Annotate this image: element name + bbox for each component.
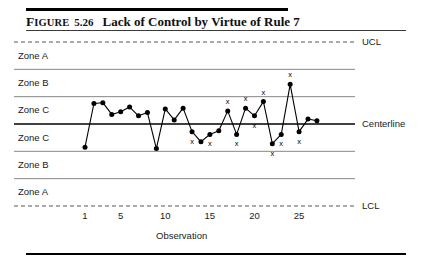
data-point [118, 109, 123, 114]
limit-label-centerline: Centerline [362, 118, 405, 129]
rule7-marker: x [233, 140, 241, 148]
data-point [288, 82, 293, 87]
rule7-marker: x [250, 122, 258, 130]
rule7-marker: x [259, 89, 267, 97]
zone-label-1: Zone B [18, 77, 49, 88]
x-tick-label-5: 5 [107, 210, 135, 221]
limit-label-ucl: UCL [362, 36, 381, 47]
zone-label-4: Zone B [18, 159, 49, 170]
rule7-marker: x [286, 71, 294, 79]
data-point [163, 106, 168, 111]
data-point [198, 139, 203, 144]
data-point [314, 118, 319, 123]
data-point [109, 112, 114, 117]
data-point [225, 108, 230, 113]
data-point [91, 101, 96, 106]
data-point [243, 106, 248, 111]
data-point [216, 128, 221, 133]
x-tick-label-25: 25 [285, 210, 313, 221]
data-point [207, 132, 212, 137]
data-point [252, 113, 257, 118]
data-point [136, 113, 141, 118]
zone-label-0: Zone A [18, 50, 48, 61]
rule7-marker: x [277, 140, 285, 148]
rule7-marker: x [295, 138, 303, 146]
x-tick-label-20: 20 [240, 210, 268, 221]
data-point [172, 117, 177, 122]
zone-label-2: Zone C [18, 104, 49, 115]
limit-label-lcl: LCL [362, 200, 379, 211]
x-tick-label-1: 1 [71, 210, 99, 221]
data-point [279, 132, 284, 137]
data-point [181, 106, 186, 111]
data-point [270, 141, 275, 146]
rule7-marker: x [268, 150, 276, 158]
x-tick-label-15: 15 [196, 210, 224, 221]
data-point [306, 117, 311, 122]
data-point [297, 129, 302, 134]
data-point [154, 146, 159, 151]
data-point [261, 99, 266, 104]
zone-label-3: Zone C [18, 132, 49, 143]
figure-bottom-rule [26, 253, 406, 255]
figure-container: FIGURE5.26Lack of Control by Virtue of R… [0, 0, 427, 268]
rule7-marker: x [206, 140, 214, 148]
rule7-marker: x [242, 95, 250, 103]
data-point [127, 105, 132, 110]
rule7-marker: x [224, 98, 232, 106]
x-axis-title: Observation [156, 230, 207, 241]
data-point [145, 110, 150, 115]
rule7-marker: x [188, 138, 196, 146]
zone-label-5: Zone A [18, 186, 48, 197]
data-point [234, 132, 239, 137]
x-tick-label-10: 10 [151, 210, 179, 221]
data-point [100, 100, 105, 105]
data-point [83, 145, 88, 150]
data-point [190, 129, 195, 134]
